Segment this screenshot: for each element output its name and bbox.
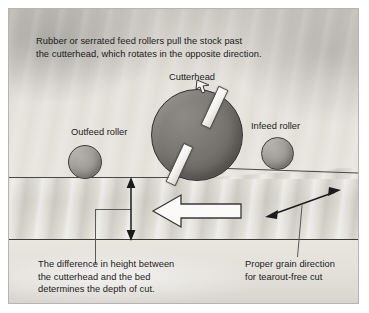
illustration-figure: Rubber or serrated feed rollers pull the… (8, 8, 359, 304)
feed-direction-arrow (153, 195, 241, 227)
label-cutterhead: Cutterhead (169, 72, 215, 83)
label-infeed-roller: Infeed roller (251, 121, 300, 132)
caption-feed-rollers: Rubber or serrated feed rollers pull the… (36, 35, 301, 60)
caption-grain-direction: Proper grain direction for tearout-free … (245, 258, 359, 283)
grain-direction-arrow (265, 187, 341, 219)
label-outfeed-roller: Outfeed roller (71, 127, 127, 138)
caption-depth-of-cut: The difference in height between the cut… (38, 258, 213, 296)
depth-of-cut-arrow (127, 177, 136, 241)
